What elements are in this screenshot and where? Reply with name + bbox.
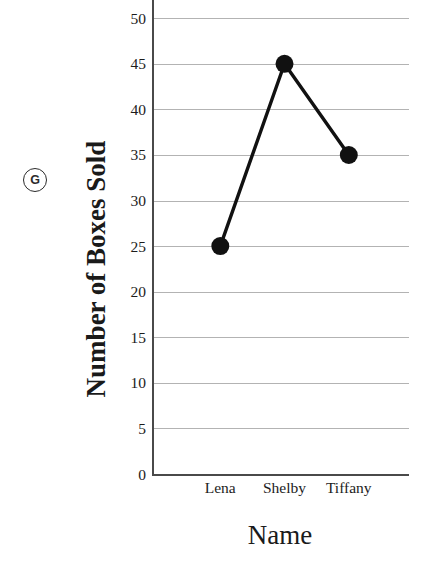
y-axis-tick-label: 50 <box>112 11 146 27</box>
y-axis-tick-label: 20 <box>112 284 146 300</box>
plot-area <box>152 0 409 476</box>
y-axis-tick-label: 5 <box>112 421 146 437</box>
y-axis-tick-label: 10 <box>112 375 146 391</box>
y-axis-tick-label: 30 <box>112 193 146 209</box>
x-axis-tick-labels: LenaShelbyTiffany <box>152 480 409 504</box>
y-axis-tick-label: 0 <box>112 467 146 483</box>
x-axis-tick-label: Tiffany <box>304 480 394 496</box>
series-line <box>220 64 348 246</box>
y-axis-tick-label: 45 <box>112 56 146 72</box>
data-point-marker <box>340 146 358 164</box>
data-point-marker <box>211 237 229 255</box>
y-axis-tick-labels: 05101520253035404550 <box>108 0 146 476</box>
line-series <box>152 0 409 476</box>
circled-letter-g-icon: G <box>23 168 47 192</box>
y-axis-tick-label: 25 <box>112 239 146 255</box>
data-point-marker <box>276 55 294 73</box>
part-tag-label: G <box>30 174 40 187</box>
chart-page: G Number of Boxes Sold 05101520253035404… <box>0 0 440 568</box>
y-axis-tick-label: 40 <box>112 102 146 118</box>
y-axis-tick-label: 15 <box>112 330 146 346</box>
y-axis-tick-label: 35 <box>112 147 146 163</box>
x-axis-title: Name <box>150 520 410 551</box>
